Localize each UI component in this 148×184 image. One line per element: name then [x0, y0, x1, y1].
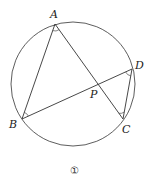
angle-mark-c — [119, 112, 124, 113]
angle-mark-b — [24, 112, 28, 116]
angle-mark-a — [53, 30, 59, 31]
segment-bd — [22, 69, 132, 119]
label-p: P — [89, 88, 98, 101]
segment-ab — [22, 24, 55, 119]
label-a: A — [49, 8, 58, 21]
geometry-diagram: A B C D P ① — [0, 0, 148, 184]
angle-mark-d — [126, 72, 131, 76]
label-b: B — [8, 118, 17, 131]
figure-caption: ① — [70, 165, 79, 176]
circle — [11, 22, 135, 146]
segment-ac — [55, 24, 123, 119]
segment-dc — [123, 69, 132, 119]
label-d: D — [134, 59, 144, 72]
label-c: C — [122, 123, 131, 136]
